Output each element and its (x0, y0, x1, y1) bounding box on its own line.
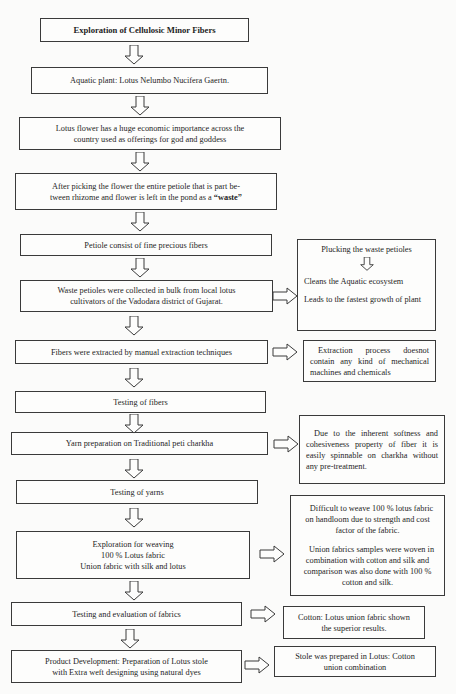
note-superior-results: Cotton: Lotus union fabric shown the sup… (283, 606, 425, 639)
step-text: cultivators of the Vadodara district of … (70, 296, 223, 307)
step-text: Product Development: Preparation of Lotu… (45, 656, 208, 667)
step-fine-fibers: Petiole consist of fine precious fibers (20, 234, 272, 256)
step-aquatic-plant: Aquatic plant: Lotus Nelumbo Nucifera Ga… (31, 67, 268, 94)
flowchart-title-box: Exploration of Cellulosic Minor Fibers (40, 18, 249, 42)
note-text: Union fabrics samples were woven in comb… (297, 544, 438, 588)
note-text: Difficult to weave 100 % lotus fabric on… (297, 503, 438, 536)
step-fabric-testing: Testing and evaluation of fabrics (11, 602, 242, 626)
note-spinnability: Due to the inherent softness and cohesiv… (299, 415, 445, 484)
step-text: Aquatic plant: Lotus Nelumbo Nucifera Ga… (70, 75, 229, 86)
step-text: tween rhizome and flower is left in the … (50, 193, 214, 202)
step-text: Yarn preparation on Traditional peti cha… (66, 438, 213, 449)
waste-emphasis: “waste” (214, 193, 242, 202)
down-arrow-icon (120, 629, 140, 649)
down-arrow-icon (124, 508, 144, 528)
right-arrow-icon (272, 287, 298, 305)
down-arrow-icon (130, 212, 150, 232)
step-petiole-waste: After picking the flower the entire peti… (15, 173, 277, 210)
step-economic-importance: Lotus flower has a huge economic importa… (19, 117, 281, 150)
down-arrow-icon (130, 96, 150, 116)
right-arrow-icon (272, 343, 298, 361)
down-arrow-icon (124, 581, 144, 601)
note-weaving-difficulty: Difficult to weave 100 % lotus fabric on… (290, 495, 445, 596)
step-extraction: Fibers were extracted by manual extracti… (15, 340, 268, 364)
step-text: 100 % Lotus fabric (101, 550, 165, 561)
right-arrow-icon (259, 545, 285, 563)
down-arrow-icon (124, 316, 144, 336)
down-arrow-icon (360, 257, 374, 274)
step-text: Testing and evaluation of fabrics (72, 609, 181, 620)
step-testing-fibers: Testing of fibers (15, 391, 266, 413)
note-text: Cleans the Aquatic ecosystem (304, 276, 429, 287)
step-text: Waste petioles were collected in bulk fr… (57, 285, 235, 296)
step-text: Petiole consist of fine precious fibers (84, 240, 207, 251)
down-arrow-icon (130, 258, 150, 278)
step-text: with Extra weft designing using natural … (52, 667, 200, 678)
note-extraction-process: Extraction process doesnot contain any k… (303, 340, 436, 382)
step-text: Testing of fibers (113, 397, 167, 408)
note-text: Plucking the waste petioles (304, 244, 429, 255)
step-testing-yarns: Testing of yarns (16, 480, 258, 504)
right-arrow-icon (273, 435, 299, 453)
flowchart-title: Exploration of Cellulosic Minor Fibers (73, 25, 215, 36)
down-arrow-icon (124, 414, 144, 434)
step-text: Union fabric with silk and lotus (80, 561, 185, 572)
step-weaving-exploration: Exploration for weaving 100 % Lotus fabr… (16, 531, 250, 579)
step-product-development: Product Development: Preparation of Lotu… (11, 650, 242, 683)
step-collection: Waste petioles were collected in bulk fr… (20, 280, 273, 312)
note-text: Leads to the fastest growth of plant (304, 294, 429, 305)
down-arrow-icon (130, 152, 150, 172)
note-stole-combination: Stole was prepared in Lotus: Cotton unio… (274, 646, 436, 677)
note-plucking-benefits: Plucking the waste petioles Cleans the A… (297, 239, 436, 331)
step-yarn-preparation: Yarn preparation on Traditional peti cha… (11, 432, 268, 455)
right-arrow-icon (250, 605, 276, 623)
note-text: Due to the inherent softness and cohesiv… (306, 428, 438, 472)
down-arrow-icon (124, 368, 144, 388)
down-arrow-icon (124, 45, 144, 65)
right-arrow-icon (244, 656, 270, 674)
step-text: Testing of yarns (110, 487, 163, 498)
note-text: Cotton: Lotus union fabric shown the sup… (290, 612, 418, 634)
step-text: Exploration for weaving (92, 539, 173, 550)
step-text: country used as offerings for god and go… (74, 134, 227, 145)
step-text: After picking the flower the entire peti… (52, 181, 240, 192)
note-text: Extraction process doesnot contain any k… (310, 345, 429, 378)
step-text: Fibers were extracted by manual extracti… (51, 347, 232, 358)
down-arrow-icon (124, 459, 144, 479)
note-text: Stole was prepared in Lotus: Cotton unio… (281, 651, 429, 673)
step-text: Lotus flower has a huge economic importa… (56, 123, 244, 134)
